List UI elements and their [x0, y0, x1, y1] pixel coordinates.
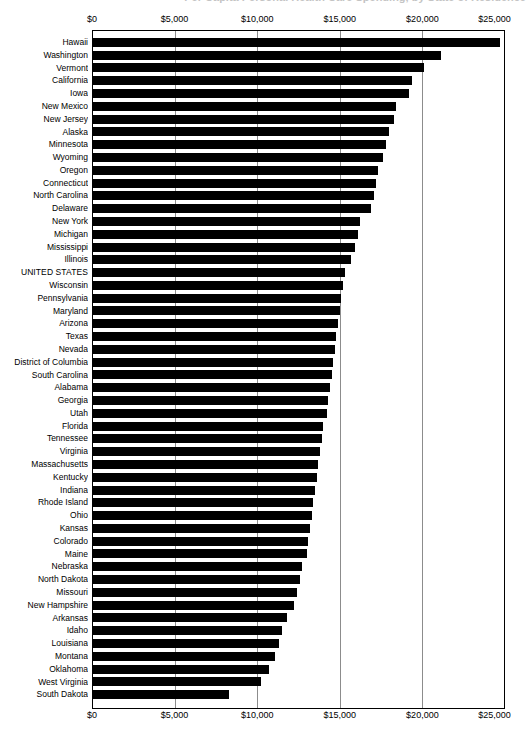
bar[interactable]	[93, 690, 229, 699]
bar-row[interactable]: Idaho	[0, 624, 532, 637]
bar[interactable]	[93, 562, 302, 571]
bar[interactable]	[93, 665, 269, 674]
bar[interactable]	[93, 63, 424, 72]
bar[interactable]	[93, 460, 318, 469]
bar-row[interactable]: New York	[0, 215, 532, 228]
bar-row[interactable]: West Virginia	[0, 676, 532, 689]
bar[interactable]	[93, 524, 310, 533]
bar[interactable]	[93, 537, 308, 546]
bar-row[interactable]: Washington	[0, 49, 532, 62]
bar-row[interactable]: North Carolina	[0, 189, 532, 202]
bar-row[interactable]: Maine	[0, 548, 532, 561]
bar[interactable]	[93, 639, 279, 648]
bar[interactable]	[93, 332, 336, 341]
bar[interactable]	[93, 306, 340, 315]
bar-row[interactable]: Wisconsin	[0, 279, 532, 292]
bar-row[interactable]: New Hampshire	[0, 599, 532, 612]
bar[interactable]	[93, 294, 341, 303]
bar[interactable]	[93, 319, 338, 328]
bar[interactable]	[93, 626, 282, 635]
bar[interactable]	[93, 127, 389, 136]
bar[interactable]	[93, 268, 345, 277]
bar[interactable]	[93, 409, 327, 418]
bar[interactable]	[93, 166, 378, 175]
bar[interactable]	[93, 217, 360, 226]
bar-row[interactable]: Texas	[0, 330, 532, 343]
bar[interactable]	[93, 677, 261, 686]
bar-row[interactable]: New Mexico	[0, 100, 532, 113]
bar[interactable]	[93, 434, 322, 443]
bar[interactable]	[93, 204, 371, 213]
bar-row[interactable]: Indiana	[0, 484, 532, 497]
bar-row[interactable]: Michigan	[0, 228, 532, 241]
bar-row[interactable]: South Dakota	[0, 688, 532, 701]
bar[interactable]	[93, 588, 297, 597]
bar[interactable]	[93, 281, 343, 290]
bar-row[interactable]: Missouri	[0, 586, 532, 599]
bar-row[interactable]: Delaware	[0, 202, 532, 215]
bar-row[interactable]: Oklahoma	[0, 663, 532, 676]
bar-row[interactable]: Virginia	[0, 445, 532, 458]
bar-row[interactable]: Minnesota	[0, 138, 532, 151]
bar[interactable]	[93, 89, 409, 98]
bar[interactable]	[93, 370, 332, 379]
bar-row[interactable]: Iowa	[0, 87, 532, 100]
bar-row[interactable]: North Dakota	[0, 573, 532, 586]
bar-row[interactable]: South Carolina	[0, 369, 532, 382]
bar-row[interactable]: UNITED STATES	[0, 266, 532, 279]
bar[interactable]	[93, 549, 307, 558]
bar[interactable]	[93, 575, 300, 584]
bar-row[interactable]: California	[0, 74, 532, 87]
bar-row[interactable]: Ohio	[0, 509, 532, 522]
bar[interactable]	[93, 447, 320, 456]
bar-row[interactable]: Rhode Island	[0, 496, 532, 509]
bar[interactable]	[93, 179, 376, 188]
bar-row[interactable]: Louisiana	[0, 637, 532, 650]
bar-row[interactable]: Florida	[0, 420, 532, 433]
bar-row[interactable]: District of Columbia	[0, 356, 532, 369]
bar[interactable]	[93, 51, 441, 60]
bar-row[interactable]: Oregon	[0, 164, 532, 177]
bar[interactable]	[93, 396, 328, 405]
bar[interactable]	[93, 652, 275, 661]
bar-row[interactable]: Mississippi	[0, 241, 532, 254]
bar-row[interactable]: Tennessee	[0, 432, 532, 445]
bar-row[interactable]: Nevada	[0, 343, 532, 356]
bar-row[interactable]: Wyoming	[0, 151, 532, 164]
bar-row[interactable]: Hawaii	[0, 36, 532, 49]
bar[interactable]	[93, 153, 383, 162]
bar-row[interactable]: Alabama	[0, 381, 532, 394]
bar-row[interactable]: Massachusetts	[0, 458, 532, 471]
bar[interactable]	[93, 243, 355, 252]
bar-row[interactable]: Utah	[0, 407, 532, 420]
bar-row[interactable]: Connecticut	[0, 177, 532, 190]
bar-row[interactable]: Arizona	[0, 317, 532, 330]
bar-row[interactable]: Alaska	[0, 126, 532, 139]
bar-row[interactable]: Maryland	[0, 305, 532, 318]
bar[interactable]	[93, 191, 374, 200]
bar-row[interactable]: Montana	[0, 650, 532, 663]
bar[interactable]	[93, 473, 317, 482]
bar-row[interactable]: Illinois	[0, 253, 532, 266]
bar[interactable]	[93, 422, 323, 431]
bar-row[interactable]: Colorado	[0, 535, 532, 548]
bar[interactable]	[93, 38, 500, 47]
bar[interactable]	[93, 486, 315, 495]
bar[interactable]	[93, 140, 386, 149]
bar[interactable]	[93, 76, 412, 85]
bar[interactable]	[93, 613, 287, 622]
bar-row[interactable]: Arkansas	[0, 612, 532, 625]
bar-row[interactable]: Kentucky	[0, 471, 532, 484]
bar[interactable]	[93, 383, 330, 392]
bar[interactable]	[93, 511, 312, 520]
bar-row[interactable]: Pennsylvania	[0, 292, 532, 305]
bar[interactable]	[93, 230, 358, 239]
bar[interactable]	[93, 358, 333, 367]
bar-row[interactable]: Nebraska	[0, 560, 532, 573]
bar-row[interactable]: Georgia	[0, 394, 532, 407]
bar[interactable]	[93, 115, 394, 124]
bar-row[interactable]: Kansas	[0, 522, 532, 535]
bar[interactable]	[93, 498, 313, 507]
bar[interactable]	[93, 255, 351, 264]
bar-row[interactable]: New Jersey	[0, 113, 532, 126]
